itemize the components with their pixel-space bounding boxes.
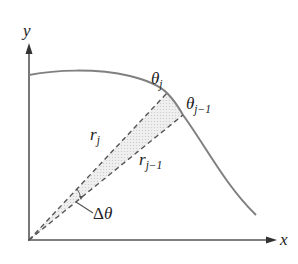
theta-j-label: θj <box>151 70 163 91</box>
theta-j-minus-1-subscript: j−1 <box>194 103 211 116</box>
x-axis-label: x <box>280 231 288 248</box>
y-axis-label-text: y <box>23 21 31 40</box>
delta-theta-label: Δθ <box>93 205 112 222</box>
polar-area-diagram: y x θj θj−1 rj rj−1 Δθ <box>0 0 298 264</box>
x-axis-label-text: x <box>280 230 288 249</box>
theta-symbol: θ <box>104 204 112 223</box>
delta-symbol: Δ <box>93 204 104 223</box>
r-j-subscript: j <box>97 134 100 147</box>
diagram-graphics <box>0 0 298 264</box>
r-symbol: r <box>90 125 97 144</box>
r-j-minus-1-subscript: j−1 <box>146 159 163 172</box>
y-axis-label: y <box>23 22 31 39</box>
r-j-label: rj <box>90 126 100 147</box>
theta-j-minus-1-label: θj−1 <box>186 95 211 116</box>
delta-theta-pointer <box>76 202 93 213</box>
r-symbol: r <box>139 150 146 169</box>
theta-j-subscript: j <box>159 78 162 91</box>
r-j-minus-1-label: rj−1 <box>139 151 162 172</box>
x-axis-arrowhead <box>266 237 277 244</box>
y-axis-arrowhead <box>26 43 33 54</box>
